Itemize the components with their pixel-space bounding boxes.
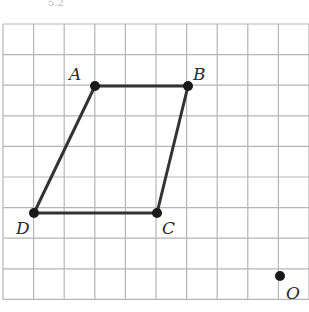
parallelogram-abcd — [34, 86, 188, 213]
point-o — [275, 271, 285, 281]
label-a: A — [67, 64, 81, 84]
label-o: O — [286, 283, 300, 303]
label-d: D — [15, 218, 30, 238]
point-c — [152, 208, 162, 218]
vertices: ABCDO — [15, 64, 300, 303]
point-a — [90, 81, 100, 91]
label-b: B — [192, 64, 206, 84]
diagram-canvas: 5.2 ABCDO — [0, 0, 309, 312]
point-d — [29, 208, 39, 218]
caption: 5.2 — [48, 0, 64, 8]
label-c: C — [162, 218, 175, 238]
grid — [3, 24, 309, 299]
point-b — [183, 81, 193, 91]
